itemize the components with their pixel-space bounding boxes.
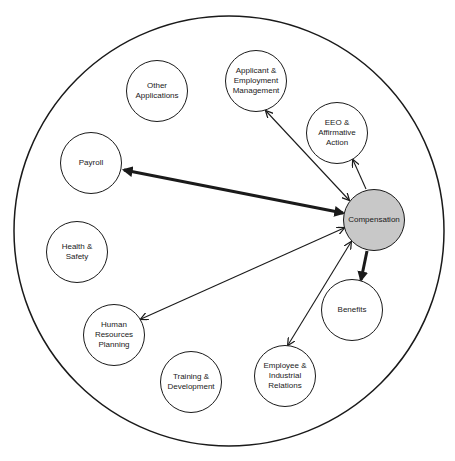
- edge-compensation-payroll: [124, 170, 343, 213]
- edge-compensation-eeo: [353, 160, 366, 189]
- node-other-applications: Other Applications: [126, 60, 188, 122]
- node-label: EEO & Affirmative Action: [318, 118, 356, 148]
- node-label: Other Applications: [135, 81, 178, 101]
- node-label: Payroll: [79, 158, 103, 168]
- edge-compensation-benefits: [361, 251, 367, 280]
- node-label: Employee & Industrial Relations: [263, 361, 306, 391]
- node-employee-industrial-relations: Employee & Industrial Relations: [254, 345, 316, 407]
- node-payroll: Payroll: [60, 132, 122, 194]
- node-human-resources-planning: Human Resources Planning: [83, 304, 145, 366]
- node-training-development: Training & Development: [160, 351, 222, 413]
- node-label: Human Resources Planning: [95, 320, 133, 350]
- node-label: Training & Development: [167, 372, 214, 392]
- edge-compensation-hr-planning: [141, 228, 344, 319]
- node-label: Applicant & Employment Management: [233, 66, 280, 96]
- node-health-safety: Health & Safety: [46, 221, 108, 283]
- node-compensation-hub: Compensation: [343, 189, 405, 251]
- hub-label: Compensation: [348, 215, 400, 225]
- node-label: Benefits: [338, 305, 367, 315]
- node-eeo-affirmative-action: EEO & Affirmative Action: [306, 102, 368, 164]
- node-label: Health & Safety: [62, 242, 93, 262]
- diagram-canvas: Other Applications Applicant & Employmen…: [0, 0, 455, 461]
- node-applicant-employment-management: Applicant & Employment Management: [225, 50, 287, 112]
- node-benefits: Benefits: [321, 279, 383, 341]
